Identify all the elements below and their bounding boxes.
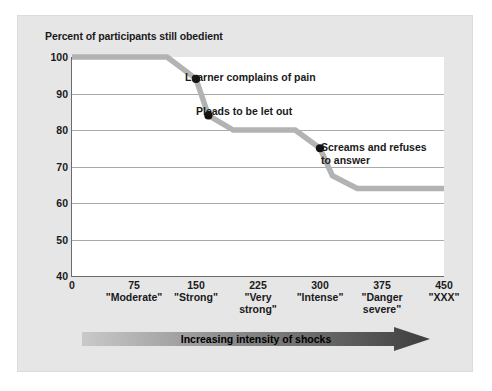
annotation-pleads-to-be-let-out: Pleads to be let out xyxy=(196,105,292,118)
y-axis-line xyxy=(71,57,72,277)
x-tick-450-value: 450 xyxy=(399,279,489,291)
y-tick-100: 100 xyxy=(34,51,68,63)
x-axis-tick-labels: 0 75 "Moderate" 150 "Strong" 225 "Very s… xyxy=(72,279,444,325)
intensity-arrow: Increasing intensity of shocks xyxy=(82,327,430,351)
x-tick-450: 450 "XXX" xyxy=(399,279,489,303)
y-tick-60: 60 xyxy=(34,197,68,209)
y-tick-80: 80 xyxy=(34,124,68,136)
plot-area: Learner complains of pain Pleads to be l… xyxy=(72,57,444,276)
figure-card: Percent of participants still obedient 1… xyxy=(18,16,472,371)
y-tick-90: 90 xyxy=(34,88,68,100)
y-tick-50: 50 xyxy=(34,234,68,246)
x-tick-450-name: "XXX" xyxy=(413,291,475,303)
x-axis-line xyxy=(71,276,444,277)
y-tick-70: 70 xyxy=(34,161,68,173)
annotation-screams-and-refuses: Screams and refuses to answer xyxy=(321,141,427,166)
y-axis-tick-labels: 100 90 80 70 60 50 40 xyxy=(26,57,68,277)
obedience-line-chart xyxy=(72,57,444,276)
annotation-learner-complains: Learner complains of pain xyxy=(185,71,316,84)
chart-title: Percent of participants still obedient xyxy=(45,30,223,42)
arrow-label: Increasing intensity of shocks xyxy=(82,327,430,351)
